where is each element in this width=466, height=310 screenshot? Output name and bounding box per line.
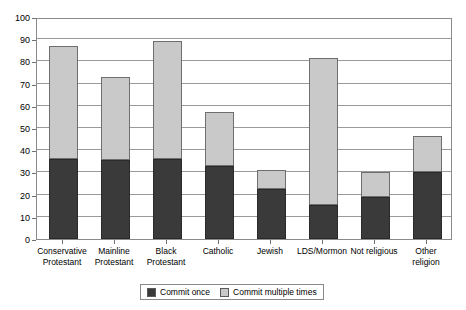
x-tick-mark	[62, 240, 63, 244]
y-tick-mark	[32, 40, 36, 41]
bar-group	[101, 17, 130, 239]
x-tick-mark	[166, 240, 167, 244]
plot-area	[36, 18, 452, 240]
bar-segment-commit-once	[101, 160, 130, 239]
bar-segment-commit-multiple-times	[413, 136, 442, 173]
legend-swatch	[147, 288, 156, 297]
bar-segment-commit-multiple-times	[361, 172, 390, 196]
y-tick-label: 0	[25, 236, 30, 245]
bar-group	[49, 17, 78, 239]
y-tick-mark	[32, 129, 36, 130]
stacked-bar-chart: 0102030405060708090100 Conservative Prot…	[0, 0, 466, 310]
y-tick-label: 70	[20, 80, 30, 89]
bar-segment-commit-once	[309, 205, 338, 239]
y-tick-label: 100	[15, 14, 30, 23]
bar-group	[257, 17, 286, 239]
bar-group	[153, 17, 182, 239]
bar-segment-commit-multiple-times	[309, 58, 338, 205]
x-tick-mark	[322, 240, 323, 244]
x-tick-mark	[114, 240, 115, 244]
y-tick-mark	[32, 151, 36, 152]
y-tick-label: 60	[20, 102, 30, 111]
y-tick-mark	[32, 173, 36, 174]
y-tick-mark	[32, 107, 36, 108]
bar-segment-commit-multiple-times	[49, 46, 78, 159]
legend-swatch	[220, 288, 229, 297]
bar-segment-commit-once	[153, 159, 182, 239]
bar-segment-commit-once	[49, 159, 78, 239]
y-tick-label: 20	[20, 191, 30, 200]
y-tick-label: 40	[20, 147, 30, 156]
legend-entry: Commit multiple times	[220, 288, 317, 297]
x-tick-label: Other religion	[394, 246, 458, 267]
bar-segment-commit-multiple-times	[153, 41, 182, 159]
legend-label: Commit once	[160, 288, 210, 297]
y-tick-label: 90	[20, 36, 30, 45]
y-tick-mark	[32, 62, 36, 63]
y-tick-mark	[32, 85, 36, 86]
bar-segment-commit-once	[257, 189, 286, 239]
bar-segment-commit-once	[361, 197, 390, 239]
bar-group	[413, 17, 442, 239]
bar-segment-commit-multiple-times	[101, 77, 130, 160]
x-tick-mark	[426, 240, 427, 244]
bar-segment-commit-once	[413, 172, 442, 239]
x-tick-mark	[374, 240, 375, 244]
legend-label: Commit multiple times	[233, 288, 317, 297]
y-tick-label: 10	[20, 213, 30, 222]
y-tick-mark	[32, 196, 36, 197]
y-tick-label: 80	[20, 58, 30, 67]
chart-legend: Commit onceCommit multiple times	[140, 284, 324, 300]
bar-group	[309, 17, 338, 239]
bar-group	[205, 17, 234, 239]
y-tick-label: 50	[20, 125, 30, 134]
bar-segment-commit-once	[205, 166, 234, 239]
bar-group	[361, 17, 390, 239]
x-axis: Conservative ProtestantMainline Protesta…	[36, 240, 452, 280]
legend-entry: Commit once	[147, 288, 210, 297]
y-tick-label: 30	[20, 169, 30, 178]
x-tick-mark	[218, 240, 219, 244]
y-tick-mark	[32, 18, 36, 19]
x-tick-mark	[270, 240, 271, 244]
bar-segment-commit-multiple-times	[205, 112, 234, 165]
y-tick-mark	[32, 218, 36, 219]
bar-segment-commit-multiple-times	[257, 170, 286, 189]
